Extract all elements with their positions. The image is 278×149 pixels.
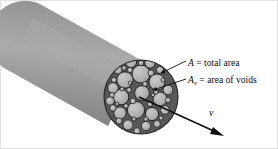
particle-circle [108, 83, 119, 94]
particle-circle [111, 77, 116, 82]
particle-circle [141, 121, 150, 130]
particle-circle [165, 97, 170, 102]
particle-circle [127, 88, 132, 93]
particle-circle [151, 93, 155, 97]
leader-line-total-area [161, 61, 186, 73]
particle-circle [144, 117, 148, 121]
particle-circle [110, 93, 115, 98]
particle-circle [130, 98, 136, 104]
particle-circle [116, 118, 122, 124]
particle-circle [106, 97, 114, 105]
particle-circle [127, 67, 132, 72]
figure-container: A = total area Av = area of voids v [0, 0, 278, 149]
particle-circle [123, 120, 133, 130]
particle-circle [120, 87, 124, 91]
particle-circle [110, 105, 116, 111]
particle-circle [117, 72, 133, 88]
particle-circle [159, 116, 163, 120]
particle-circle [124, 104, 128, 108]
particle-circle [127, 101, 144, 118]
pipe-diagram-svg [0, 0, 278, 149]
particle-circle [161, 78, 165, 82]
velocity-arrow-head [210, 127, 224, 136]
particle-circle [163, 85, 173, 95]
particle-circle [145, 58, 155, 68]
particle-circle [138, 60, 143, 65]
particle-circle [154, 121, 161, 128]
particle-circle [132, 117, 136, 121]
particle-circle [122, 66, 126, 70]
particle-circle [148, 70, 154, 76]
particle-circle [115, 102, 119, 106]
particle-circle [128, 81, 132, 85]
particle-circle [143, 82, 148, 87]
